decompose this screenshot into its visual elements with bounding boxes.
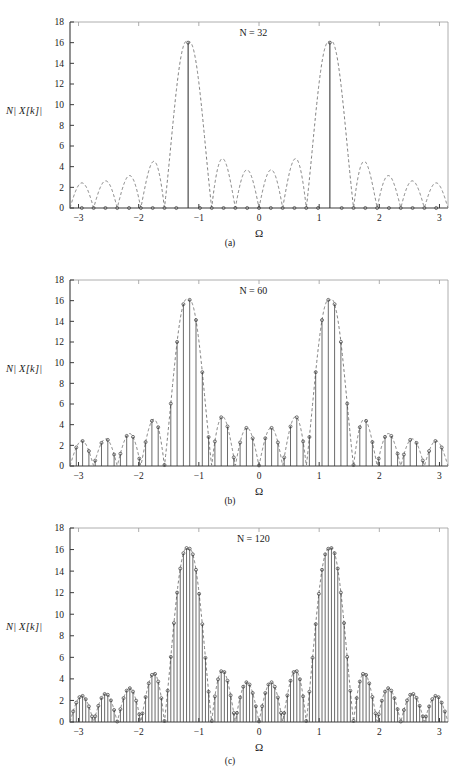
x-tick-label: 2: [377, 471, 382, 481]
x-tick-label: −2: [134, 727, 144, 737]
y-tick-label: 6: [59, 399, 64, 409]
panel-a-y-axis-label: N| X[k]|: [6, 105, 42, 116]
y-tick-label: 12: [55, 79, 65, 89]
panel-title: N = 120: [237, 533, 270, 544]
x-tick-label: 1: [317, 727, 322, 737]
y-tick-label: 12: [55, 588, 65, 598]
dft-stem-group: [80, 41, 437, 209]
panel-b-y-axis-label: N| X[k]|: [6, 363, 42, 374]
x-tick-label: 0: [257, 471, 262, 481]
y-tick-label: 18: [55, 523, 65, 533]
panel-c-plot: 024681012141618−3−2−10123ΩN = 120: [0, 516, 460, 777]
panel-c-y-axis-label: N| X[k]|: [6, 621, 42, 632]
y-tick-label: 16: [55, 545, 65, 555]
y-tick-label: 6: [59, 653, 64, 663]
panel-c-caption: (c): [0, 756, 460, 766]
x-tick-label: 2: [377, 213, 382, 223]
y-tick-label: 14: [55, 567, 65, 577]
x-tick-label: −2: [134, 471, 144, 481]
y-tick-label: 0: [59, 461, 64, 471]
dft-stem-group: [75, 298, 443, 467]
panel-a: N| X[k]| 024681012141618−3−2−10123ΩN = 3…: [0, 0, 460, 258]
panel-title: N = 60: [239, 285, 267, 296]
panel-a-caption: (a): [0, 238, 460, 248]
x-tick-label: 2: [377, 727, 382, 737]
y-tick-label: 14: [55, 59, 65, 69]
y-tick-label: 4: [59, 162, 64, 172]
y-tick-label: 8: [59, 379, 64, 389]
x-tick-label: 3: [437, 727, 442, 737]
y-tick-label: 2: [59, 696, 64, 706]
y-tick-label: 8: [59, 631, 64, 641]
x-tick-label: −2: [134, 213, 144, 223]
x-tick-label: −1: [194, 727, 204, 737]
y-tick-label: 2: [59, 441, 64, 451]
y-tick-label: 18: [55, 275, 65, 285]
dtft-envelope-curve: [70, 41, 448, 207]
y-tick-label: 16: [55, 296, 65, 306]
x-tick-label: −3: [73, 727, 83, 737]
panel-b-caption: (b): [0, 496, 460, 506]
y-tick-label: 0: [59, 717, 64, 727]
x-tick-label: 0: [257, 213, 262, 223]
y-tick-label: 10: [55, 358, 65, 368]
plot-frame: [70, 22, 448, 208]
y-tick-label: 2: [59, 183, 64, 193]
panel-b: N| X[k]| 024681012141618−3−2−10123ΩN = 6…: [0, 258, 460, 516]
y-tick-label: 4: [59, 420, 64, 430]
panel-b-plot: 024681012141618−3−2−10123ΩN = 60: [0, 258, 460, 516]
y-tick-label: 18: [55, 17, 65, 27]
x-tick-label: −1: [194, 213, 204, 223]
y-tick-label: 16: [55, 38, 65, 48]
x-tick-label: −3: [73, 213, 83, 223]
panel-title: N = 32: [239, 27, 267, 38]
x-tick-label: 0: [257, 727, 262, 737]
y-tick-label: 8: [59, 121, 64, 131]
x-tick-label: 3: [437, 471, 442, 481]
x-tick-label: 1: [317, 471, 322, 481]
x-tick-label: −3: [73, 471, 83, 481]
y-tick-label: 12: [55, 337, 65, 347]
x-axis-label: Ω: [255, 741, 263, 753]
x-tick-label: 1: [317, 213, 322, 223]
y-tick-label: 10: [55, 610, 65, 620]
y-tick-label: 6: [59, 141, 64, 151]
panel-c: N| X[k]| 024681012141618−3−2−10123ΩN = 1…: [0, 516, 460, 777]
figure-dft-magnitude-spectra: N| X[k]| 024681012141618−3−2−10123ΩN = 3…: [0, 0, 460, 777]
dft-stem-group: [72, 547, 447, 723]
x-tick-label: −1: [194, 471, 204, 481]
y-tick-label: 4: [59, 674, 64, 684]
plot-axes: [70, 22, 448, 208]
x-tick-label: 3: [437, 213, 442, 223]
y-tick-label: 14: [55, 317, 65, 327]
panel-a-plot: 024681012141618−3−2−10123ΩN = 32: [0, 0, 460, 258]
y-tick-label: 0: [59, 203, 64, 213]
y-tick-label: 10: [55, 100, 65, 110]
